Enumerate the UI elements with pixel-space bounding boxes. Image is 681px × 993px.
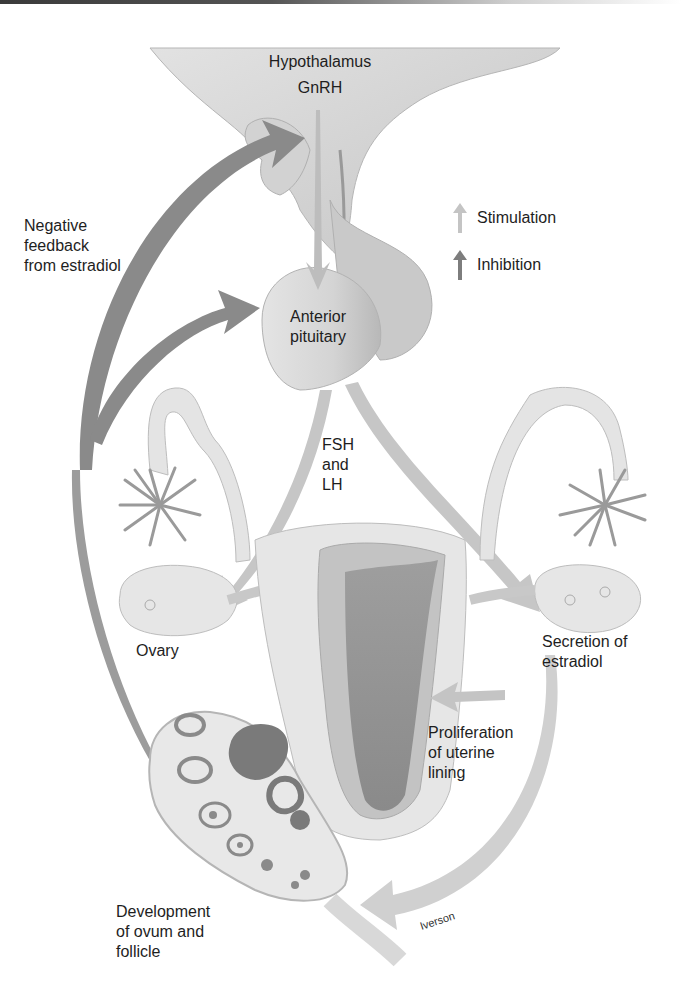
- fimbriae-right: [560, 470, 645, 545]
- anatomy-illustration: [0, 0, 681, 993]
- legend-inhibition: Inhibition: [453, 250, 541, 280]
- fallopian-tube-right: [480, 387, 628, 560]
- proliferation-label: Proliferation of uterine lining: [428, 723, 513, 783]
- legend-inhibition-label: Inhibition: [477, 256, 541, 274]
- legend-stimulation: Stimulation: [453, 203, 556, 233]
- ovary-right: [470, 565, 641, 633]
- pituitary-gland: [262, 200, 432, 390]
- dark-arrow-up-icon: [453, 250, 467, 280]
- fallopian-tube-left: [148, 388, 250, 562]
- gnrh-label: GnRH: [280, 78, 360, 98]
- ovary-label: Ovary: [136, 641, 179, 661]
- legend-stimulation-label: Stimulation: [477, 209, 556, 227]
- negative-feedback-label: Negative feedback from estradiol: [24, 216, 121, 276]
- anterior-pituitary-label: Anterior pituitary: [268, 307, 368, 347]
- fimbriae-left: [120, 468, 200, 545]
- development-of-ovum-label: Development of ovum and follicle: [116, 902, 210, 962]
- fsh-lh-label: FSH and LH: [322, 435, 354, 495]
- light-arrow-up-icon: [453, 203, 467, 233]
- hypothalamus-label: Hypothalamus: [250, 52, 390, 72]
- secretion-of-estradiol-label: Secretion of estradiol: [542, 632, 627, 672]
